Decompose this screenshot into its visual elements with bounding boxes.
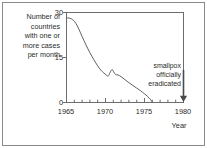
data-series-line [67, 18, 153, 103]
axis-ticks [63, 13, 184, 103]
eradication-arrow-icon [180, 70, 187, 102]
smallpox-eradication-chart: Number of countries with one or more cas… [0, 0, 207, 148]
chart-vector-layer [0, 0, 207, 148]
